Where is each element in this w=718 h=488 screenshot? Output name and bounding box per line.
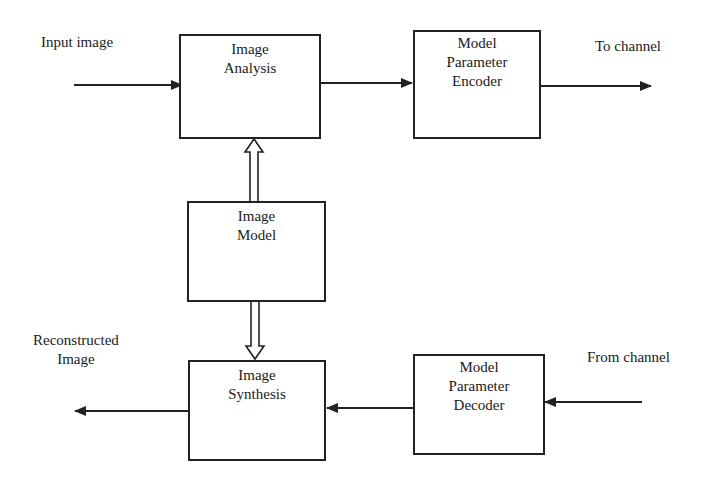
label-line: Image [181, 40, 319, 59]
label-line: Parameter [415, 377, 543, 396]
model-parameter-encoder-block: Model Parameter Encoder [413, 30, 541, 139]
image-analysis-label: Image Analysis [181, 36, 319, 78]
decoder-label: Model Parameter Decoder [415, 356, 543, 415]
from-channel-label: From channel [587, 348, 670, 367]
image-model-label: Image Model [189, 203, 324, 245]
label-line: Image [190, 366, 324, 385]
label-line: Decoder [415, 396, 543, 415]
label-line: Image [189, 207, 324, 226]
reconstructed-image-label: Reconstructed Image [33, 331, 119, 369]
label-line: Reconstructed [33, 331, 119, 350]
image-model-block: Image Model [187, 201, 326, 302]
to-channel-label: To channel [595, 37, 661, 56]
model-parameter-decoder-block: Model Parameter Decoder [413, 354, 545, 455]
input-image-label: Input image [41, 33, 113, 52]
label-line: Parameter [415, 53, 539, 72]
image-synthesis-label: Image Synthesis [190, 362, 324, 404]
label-line: Synthesis [190, 385, 324, 404]
image-synthesis-block: Image Synthesis [188, 360, 326, 461]
image-analysis-block: Image Analysis [179, 34, 321, 139]
label-line: Image [33, 350, 119, 369]
connector-layer [0, 0, 718, 488]
label-line: Encoder [415, 72, 539, 91]
model-to-synthesis-hollow-arrow [246, 301, 264, 359]
label-line: Analysis [181, 59, 319, 78]
label-line: Model [415, 34, 539, 53]
model-to-analysis-hollow-arrow [245, 139, 263, 201]
label-line: Model [415, 358, 543, 377]
label-line: Model [189, 226, 324, 245]
encoder-label: Model Parameter Encoder [415, 32, 539, 91]
